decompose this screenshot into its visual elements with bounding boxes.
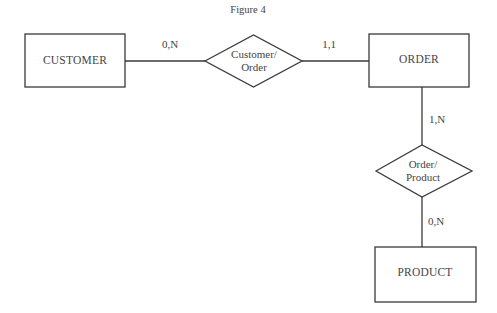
order-entity-label: ORDER [399,54,439,66]
cardinality-customer-side: 0,N [162,39,178,50]
customer-order-line1: Customer/ [231,48,277,61]
cardinality-product-side: 0,N [428,216,444,227]
order-product-relationship-label: Order/ Product [406,158,440,184]
order-product-line1: Order/ [406,158,440,171]
customer-order-relationship-label: Customer/ Order [231,48,277,74]
product-entity-label: PRODUCT [397,267,452,279]
customer-entity-label: CUSTOMER [43,55,107,67]
figure-title: Figure 4 [230,5,265,16]
cardinality-order-side-top: 1,1 [322,39,336,50]
customer-order-line2: Order [231,61,277,74]
order-product-line2: Product [406,171,440,184]
cardinality-order-side-bottom: 1,N [429,114,445,125]
